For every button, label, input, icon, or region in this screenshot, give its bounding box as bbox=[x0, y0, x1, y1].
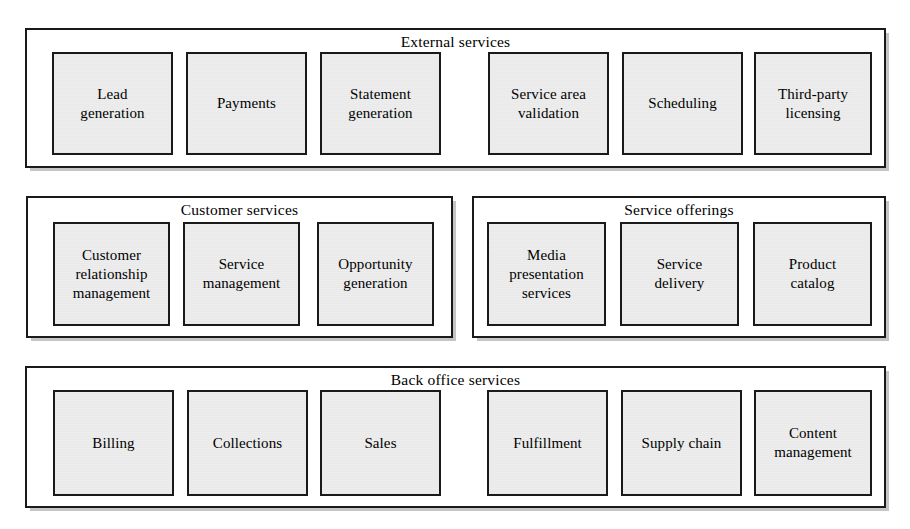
service-box-label-service-delivery: Servicedelivery bbox=[625, 255, 734, 293]
service-box-billing: Billing bbox=[53, 390, 174, 496]
service-box-sales: Sales bbox=[320, 390, 441, 496]
service-box-label-scheduling: Scheduling bbox=[627, 94, 738, 113]
service-box-label-product-catalog: Productcatalog bbox=[758, 255, 867, 293]
service-box-label-billing: Billing bbox=[58, 434, 169, 453]
service-box-supply-chain: Supply chain bbox=[621, 390, 742, 496]
service-box-customer-relationship-management: Customerrelationshipmanagement bbox=[53, 222, 170, 326]
service-box-label-lead-generation: Leadgeneration bbox=[57, 85, 168, 123]
service-box-lead-generation: Leadgeneration bbox=[52, 52, 173, 155]
service-box-scheduling: Scheduling bbox=[622, 52, 743, 155]
service-box-fulfillment: Fulfillment bbox=[487, 390, 608, 496]
group-customer-services: Customer servicesCustomerrelationshipman… bbox=[26, 196, 453, 338]
service-box-service-area-validation: Service areavalidation bbox=[488, 52, 609, 155]
service-box-label-content-management: Contentmanagement bbox=[759, 424, 867, 462]
service-box-label-opportunity-generation: Opportunitygeneration bbox=[322, 255, 429, 293]
service-box-third-party-licensing: Third-partylicensing bbox=[754, 52, 872, 155]
service-box-label-customer-relationship-management: Customerrelationshipmanagement bbox=[58, 246, 165, 303]
service-box-label-payments: Payments bbox=[191, 94, 302, 113]
service-box-label-service-area-validation: Service areavalidation bbox=[493, 85, 604, 123]
group-service-offerings: Service offeringsMediapresentationservic… bbox=[472, 196, 886, 338]
service-box-label-media-presentation-services: Mediapresentationservices bbox=[492, 246, 601, 303]
group-external-services: External servicesLeadgenerationPaymentsS… bbox=[25, 28, 886, 168]
service-box-collections: Collections bbox=[187, 390, 308, 496]
group-title-external-services: External services bbox=[27, 33, 884, 51]
service-box-service-delivery: Servicedelivery bbox=[620, 222, 739, 326]
service-box-label-service-management: Servicemanagement bbox=[188, 255, 295, 293]
service-architecture-diagram: External servicesLeadgenerationPaymentsS… bbox=[0, 0, 910, 529]
service-box-label-collections: Collections bbox=[192, 434, 303, 453]
group-back-office-services: Back office servicesBillingCollectionsSa… bbox=[25, 366, 886, 508]
service-box-product-catalog: Productcatalog bbox=[753, 222, 872, 326]
service-box-label-statement-generation: Statementgeneration bbox=[325, 85, 436, 123]
service-box-media-presentation-services: Mediapresentationservices bbox=[487, 222, 606, 326]
service-box-label-third-party-licensing: Third-partylicensing bbox=[759, 85, 867, 123]
service-box-payments: Payments bbox=[186, 52, 307, 155]
group-title-customer-services: Customer services bbox=[28, 201, 451, 219]
service-box-label-fulfillment: Fulfillment bbox=[492, 434, 603, 453]
service-box-statement-generation: Statementgeneration bbox=[320, 52, 441, 155]
service-box-content-management: Contentmanagement bbox=[754, 390, 872, 496]
group-title-service-offerings: Service offerings bbox=[474, 201, 884, 219]
service-box-opportunity-generation: Opportunitygeneration bbox=[317, 222, 434, 326]
service-box-label-supply-chain: Supply chain bbox=[626, 434, 737, 453]
service-box-label-sales: Sales bbox=[325, 434, 436, 453]
service-box-service-management: Servicemanagement bbox=[183, 222, 300, 326]
group-title-back-office-services: Back office services bbox=[27, 371, 884, 389]
